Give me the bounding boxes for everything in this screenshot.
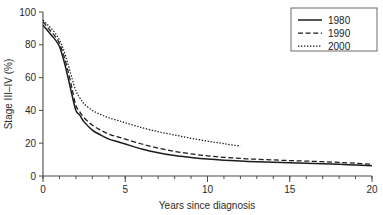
legend-label-2000: 2000	[328, 41, 351, 52]
survival-curve-chart: 020406080100 05101520 Years since diagno…	[0, 0, 383, 215]
x-tick-label: 15	[284, 184, 296, 195]
legend-label-1990: 1990	[328, 28, 351, 39]
x-axis-title: Years since diagnosis	[159, 200, 255, 211]
x-tick-label: 5	[122, 184, 128, 195]
y-tick-label: 100	[19, 7, 36, 18]
chart-figure: 020406080100 05101520 Years since diagno…	[0, 0, 383, 215]
y-tick-label: 0	[30, 171, 36, 182]
y-tick-label: 80	[25, 39, 37, 50]
y-axis-title: Stage III–IV (%)	[3, 59, 14, 130]
y-tick-label: 60	[25, 72, 37, 83]
y-tick-label: 20	[25, 138, 37, 149]
x-tick-label: 20	[366, 184, 378, 195]
x-axis-tick-labels: 05101520	[40, 184, 378, 195]
x-tick-label: 0	[40, 184, 46, 195]
y-tick-label: 40	[25, 105, 37, 116]
legend-label-1980: 1980	[328, 15, 351, 26]
series-line-2000	[43, 20, 240, 146]
x-tick-label: 10	[202, 184, 214, 195]
y-axis-tick-labels: 020406080100	[19, 7, 36, 182]
y-axis-ticks	[39, 12, 43, 176]
